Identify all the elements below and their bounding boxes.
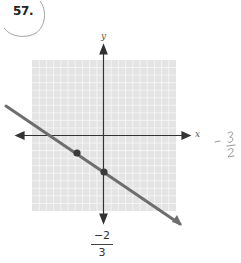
fraction-bar	[91, 244, 113, 245]
slope-fraction: −2 3	[88, 230, 116, 259]
graph-figure	[0, 0, 241, 263]
point-second	[73, 149, 80, 156]
problem-number-circle	[4, 1, 45, 36]
fraction-denominator: 3	[88, 247, 116, 259]
x-axis-label: x	[195, 129, 200, 139]
point-y-intercept	[100, 168, 107, 175]
handwritten-note	[215, 132, 235, 157]
y-axis-label: y	[101, 31, 106, 41]
fraction-numerator: −2	[88, 230, 116, 242]
